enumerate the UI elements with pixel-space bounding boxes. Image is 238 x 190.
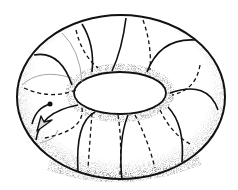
torus-diagram [0, 0, 238, 190]
torus-figure [0, 0, 238, 190]
torus-hole [74, 72, 166, 114]
